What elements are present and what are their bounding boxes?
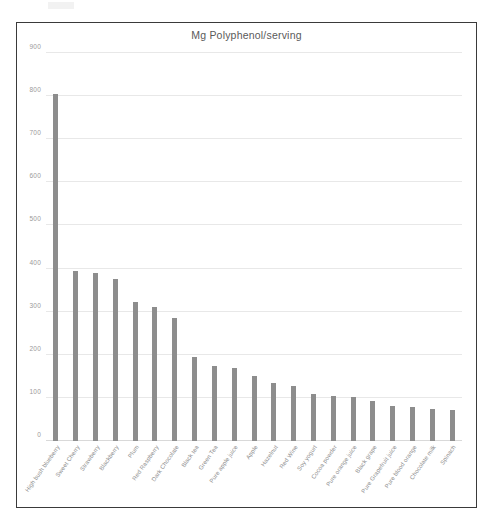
y-axis-tick-label: 200 (30, 344, 41, 351)
bar[interactable] (450, 410, 455, 441)
bar[interactable] (390, 406, 395, 441)
bar[interactable] (93, 273, 98, 441)
bar-slot (442, 53, 462, 441)
bar[interactable] (192, 357, 197, 441)
bar-slot (284, 53, 304, 441)
bar-slot (46, 53, 66, 441)
y-axis-tick-label: 100 (30, 387, 41, 394)
bar[interactable] (152, 307, 157, 442)
bar-slot (422, 53, 442, 441)
x-label-slot: Red Wine (284, 441, 304, 507)
bars-group (46, 53, 462, 441)
bar-slot (205, 53, 225, 441)
bar[interactable] (311, 394, 316, 441)
bar-slot (125, 53, 145, 441)
y-axis-tick-label: 700 (30, 129, 41, 136)
bar-slot (244, 53, 264, 441)
x-label-slot: Pure apple juice (224, 441, 244, 507)
x-label-slot: Black tea (185, 441, 205, 507)
bar-slot (264, 53, 284, 441)
y-axis-tick-label: 800 (30, 86, 41, 93)
bar-slot (165, 53, 185, 441)
x-label-slot: Strawberry (86, 441, 106, 507)
x-axis-tick-label: Plum (127, 444, 140, 459)
x-label-slot: Dark Chocolate (165, 441, 185, 507)
bar[interactable] (212, 366, 217, 441)
bar-slot (343, 53, 363, 441)
x-label-slot: Spinach (442, 441, 462, 507)
bar[interactable] (370, 401, 375, 441)
bar[interactable] (351, 397, 356, 441)
bar-slot (323, 53, 343, 441)
bar[interactable] (271, 383, 276, 441)
x-axis-tick-labels: High bush blueberrySweet CherryStrawberr… (46, 441, 462, 507)
y-axis-tick-label: 400 (30, 258, 41, 265)
x-label-slot: Blackberry (105, 441, 125, 507)
bar-slot (224, 53, 244, 441)
bar-slot (383, 53, 403, 441)
bar[interactable] (430, 409, 435, 441)
bar-slot (86, 53, 106, 441)
y-axis-tick-label: 300 (30, 301, 41, 308)
bar[interactable] (73, 271, 78, 441)
bar[interactable] (53, 94, 58, 441)
scan-artifact (48, 2, 74, 9)
x-label-slot: Pure orange juice (343, 441, 363, 507)
chart-title: Mg Polyphenol/serving (17, 29, 476, 41)
bar[interactable] (291, 386, 296, 441)
bar-slot (145, 53, 165, 441)
bar[interactable] (252, 376, 257, 441)
plot-area: 0100200300400500600700800900 (46, 53, 462, 441)
bar-slot (403, 53, 423, 441)
x-axis-tick-label: High bush blueberry (24, 444, 61, 493)
bar-slot (185, 53, 205, 441)
x-label-slot: Sweet Cherry (66, 441, 86, 507)
bar[interactable] (133, 302, 138, 441)
bar[interactable] (172, 318, 177, 441)
x-label-slot: Hazelnut (264, 441, 284, 507)
bar[interactable] (113, 279, 118, 441)
y-axis-tick-label: 0 (37, 431, 41, 438)
x-axis-tick-label: Spinach (439, 444, 457, 466)
y-axis-tick-label: 900 (30, 43, 41, 50)
x-label-slot: Apple (244, 441, 264, 507)
bar[interactable] (232, 368, 237, 441)
x-axis-tick-label: Apple (245, 444, 259, 460)
bar[interactable] (410, 407, 415, 441)
x-label-slot: Chocolate milk (422, 441, 442, 507)
bar[interactable] (331, 396, 336, 441)
bar-slot (105, 53, 125, 441)
bar-slot (304, 53, 324, 441)
y-axis-tick-label: 600 (30, 172, 41, 179)
y-axis-tick-label: 500 (30, 215, 41, 222)
chart-container: Mg Polyphenol/serving 010020030040050060… (16, 22, 477, 508)
bar-slot (363, 53, 383, 441)
bar-slot (66, 53, 86, 441)
